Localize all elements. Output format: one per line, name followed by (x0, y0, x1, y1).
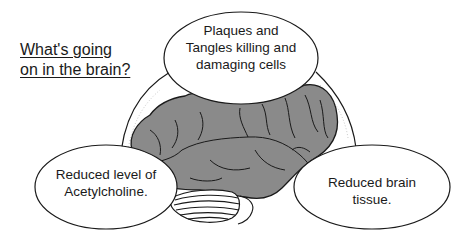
callout-plaques: Plaques and Tangles killing and damaging… (166, 22, 316, 73)
callout-acetylcholine-line-2: Acetylcholine. (40, 183, 172, 200)
callout-plaques-line-2: Tangles killing and (166, 39, 316, 56)
diagram: What's going on in the brain? Plaques an… (0, 0, 474, 246)
brainstem (238, 196, 253, 224)
callout-plaques-line-1: Plaques and (166, 22, 316, 39)
callout-brain-tissue: Reduced brain tissue. (312, 174, 432, 208)
cerebellum (170, 190, 240, 222)
callout-acetylcholine-line-1: Reduced level of (40, 166, 172, 183)
title-line-2: on in the brain? (20, 60, 130, 80)
title-line-1: What's going (20, 40, 130, 60)
callout-brain-tissue-line-1: Reduced brain (312, 174, 432, 191)
diagram-title: What's going on in the brain? (20, 40, 130, 80)
callout-brain-tissue-line-2: tissue. (312, 191, 432, 208)
callout-acetylcholine: Reduced level of Acetylcholine. (40, 166, 172, 200)
callout-plaques-line-3: damaging cells (166, 56, 316, 73)
